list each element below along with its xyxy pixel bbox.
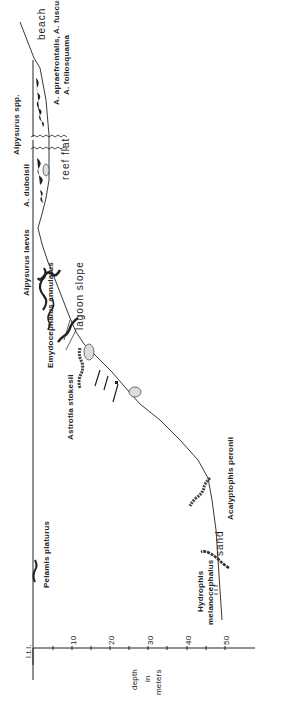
axis-origin-label: l.t.l. <box>24 644 33 658</box>
zone-label-beach: beach <box>36 8 47 40</box>
axis-title-meters: meters <box>154 669 163 695</box>
axis-tick-20: 20 <box>107 636 116 645</box>
zone-label-lagoon-slope: lagoon slope <box>74 261 85 330</box>
axis-title-depth: depth <box>130 669 139 690</box>
species-label-foliosquama: A. foliosquama <box>62 35 71 95</box>
species-label-aipysurus-spp: Aipysurus spp. <box>12 94 21 155</box>
lagoon-slope-coral <box>40 268 141 402</box>
axis-tick-40: 40 <box>184 636 193 645</box>
axis-tick-10: 10 <box>69 636 78 645</box>
species-label-hydrophis-species: melanocephalus <box>206 560 215 626</box>
snake-acalyptophis <box>190 478 210 506</box>
species-label-apraefrontalis: A. apraefrontalis, A. fuscus, <box>52 0 61 105</box>
habitat-profile-diagram <box>0 0 289 719</box>
reef-flat-rock <box>43 164 49 176</box>
axis-title-in: in <box>143 675 152 682</box>
species-label-astrotia: Astrotia stokesii <box>66 374 75 440</box>
axis-tick-50: 50 <box>222 636 231 645</box>
zone-label-reef-flat: reef flat <box>60 138 71 180</box>
snake-astrotia <box>79 348 83 388</box>
snake-pelamis <box>34 560 37 582</box>
species-label-duboisii: A. duboisii <box>22 164 31 207</box>
species-label-acalyptophis: Acalyptophis peronii <box>226 437 235 520</box>
species-label-pelamis: Pelamis platurus <box>42 521 51 588</box>
species-label-emydocephalus: Emydocephalus annulatus <box>46 262 55 368</box>
species-label-hydrophis-genus: Hydrophis <box>196 571 205 612</box>
species-label-laevis: Aipysurus laevis <box>22 229 31 296</box>
axis-tick-30: 30 <box>146 636 155 645</box>
reef-flat-coral <box>36 78 44 203</box>
zone-label-sand: sand <box>214 530 225 556</box>
